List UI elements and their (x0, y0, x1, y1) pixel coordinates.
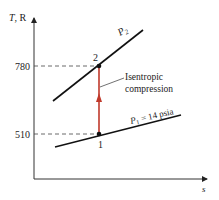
t-s-diagram: T, R s 780 510 P2 P1 = 14 psia 2 1 Isent… (0, 0, 219, 200)
state-point-2 (97, 64, 102, 69)
isobar-p1 (55, 115, 181, 147)
x-axis-label: s (202, 184, 206, 194)
y-axis-label: T, R (9, 12, 27, 23)
state-label-1: 1 (98, 139, 103, 150)
tick-780: 780 (15, 61, 30, 72)
process-arrowhead-icon (96, 93, 102, 102)
callout-leader (100, 78, 124, 87)
tick-510: 510 (15, 129, 30, 140)
callout-line-1: Isentropic (125, 72, 163, 82)
callout-line-2: compression (125, 84, 173, 94)
state-label-2: 2 (93, 52, 98, 63)
isobar-p1-label: P1 = 14 psia (128, 106, 174, 127)
isobar-p2-label: P2 (115, 23, 131, 40)
state-point-1 (97, 132, 102, 137)
